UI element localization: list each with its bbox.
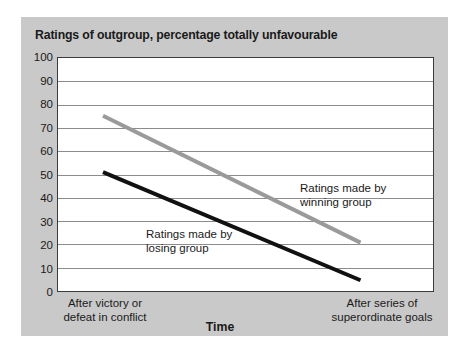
x-tick-right-line1: After series of bbox=[317, 297, 447, 311]
y-tick-90: 90 bbox=[19, 75, 53, 87]
gridline-90 bbox=[58, 81, 433, 82]
y-tick-20: 20 bbox=[19, 239, 53, 251]
y-tick-100: 100 bbox=[19, 51, 53, 63]
y-tick-50: 50 bbox=[19, 169, 53, 181]
y-tick-70: 70 bbox=[19, 122, 53, 134]
y-tick-80: 80 bbox=[19, 98, 53, 110]
annotation-winning-line2: winning group bbox=[300, 196, 386, 210]
chart-title: Ratings of outgroup, percentage totally … bbox=[35, 28, 337, 42]
annotation-winning-group: Ratings made by winning group bbox=[300, 182, 386, 209]
y-tick-10: 10 bbox=[19, 263, 53, 275]
y-tick-30: 30 bbox=[19, 216, 53, 228]
y-tick-40: 40 bbox=[19, 192, 53, 204]
gridline-20 bbox=[58, 244, 433, 245]
chart-figure: Ratings of outgroup, percentage totally … bbox=[0, 0, 470, 354]
y-axis-tick-labels: 100 90 80 70 60 50 40 30 20 10 0 bbox=[16, 57, 53, 292]
gridline-70 bbox=[58, 128, 433, 129]
x-axis-title-text: Time bbox=[206, 320, 234, 334]
x-tick-left-line1: After victory or bbox=[40, 297, 170, 311]
gridline-10 bbox=[58, 268, 433, 269]
gridline-80 bbox=[58, 105, 433, 106]
annotation-losing-line2: losing group bbox=[146, 242, 232, 256]
x-axis-title: Time bbox=[0, 320, 470, 334]
annotation-losing-group: Ratings made by losing group bbox=[146, 228, 232, 255]
gridline-30 bbox=[58, 221, 433, 222]
annotation-losing-line1: Ratings made by bbox=[146, 228, 232, 242]
y-tick-60: 60 bbox=[19, 145, 53, 157]
plot-area bbox=[57, 57, 434, 292]
gridline-60 bbox=[58, 151, 433, 152]
gridline-50 bbox=[58, 175, 433, 176]
annotation-winning-line1: Ratings made by bbox=[300, 182, 386, 196]
